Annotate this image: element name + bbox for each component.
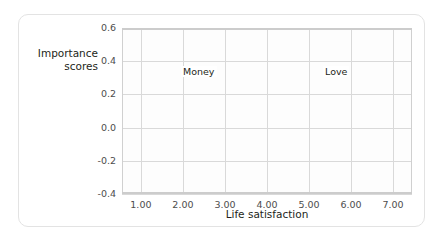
gridline-vertical: [393, 28, 394, 194]
series-label-love: Love: [323, 66, 349, 77]
gridline-vertical: [309, 28, 310, 194]
gridline-vertical: [183, 28, 184, 194]
gridline-vertical: [267, 28, 268, 194]
plot-axis-left: [122, 28, 123, 194]
gridline-vertical: [141, 28, 142, 194]
gridline-horizontal: [122, 194, 412, 195]
gridline-vertical: [351, 28, 352, 194]
y-axis-tick-label: 0.2: [82, 88, 116, 99]
y-axis-tick-label: -0.4: [82, 188, 116, 199]
series-label-money: Money: [181, 66, 217, 77]
plot-area: [122, 28, 412, 194]
chart-screenshot: Importance scores 0.6 0.4 0.2 0.0 -0.2 -…: [0, 0, 448, 241]
plot-axis-right: [411, 28, 412, 194]
plot-axis-bottom: [122, 192, 412, 194]
y-axis-tick-label: -0.2: [82, 155, 116, 166]
y-axis-tick-label: 0.6: [82, 22, 116, 33]
gridline-vertical: [225, 28, 226, 194]
y-axis-tick-label: 0.4: [82, 55, 116, 66]
plot-axis-top: [122, 28, 412, 30]
x-axis-title: Life satisfaction: [122, 208, 412, 220]
y-axis-tick-label: 0.0: [82, 122, 116, 133]
